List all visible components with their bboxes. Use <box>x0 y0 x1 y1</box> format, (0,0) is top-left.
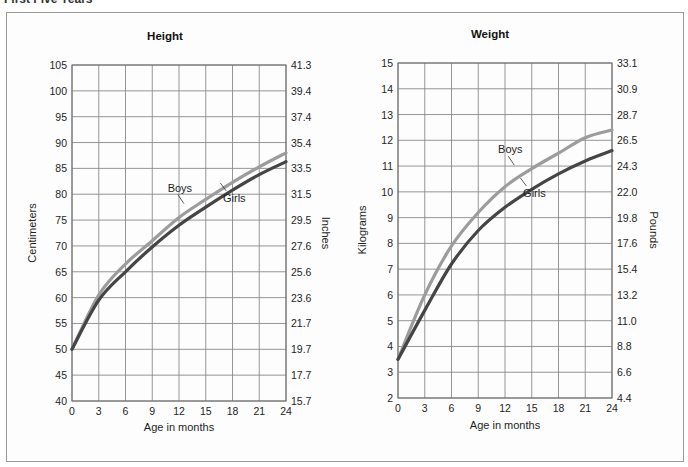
height-ytick-right: 35.4 <box>291 137 312 149</box>
weight-ytick-right: 33.1 <box>617 57 638 69</box>
weight-ytick-right: 4.4 <box>617 392 632 404</box>
height-ytick-left: 75 <box>55 214 67 226</box>
height-xtick: 9 <box>149 405 155 417</box>
height-ytick-right: 37.4 <box>291 111 312 123</box>
height-ytick-left: 100 <box>49 85 67 97</box>
weight-ytick-right: 24.3 <box>617 160 638 172</box>
weight-xtick: 6 <box>449 402 455 414</box>
weight-ytick-right: 30.9 <box>617 83 638 95</box>
height-ytick-right: 39.4 <box>291 85 312 97</box>
height-xtick: 0 <box>69 405 75 417</box>
height-ytick-left: 95 <box>55 111 67 123</box>
height-xtick: 24 <box>280 405 292 417</box>
weight-ytick-left: 9 <box>387 212 393 224</box>
height-ytick-right: 33.5 <box>291 162 312 174</box>
weight-ytick-left: 6 <box>387 289 393 301</box>
height-xtick: 21 <box>253 405 265 417</box>
height-ytick-left: 70 <box>55 240 67 252</box>
weight-leader-girls <box>520 178 526 186</box>
height-x-axis-label: Age in months <box>144 421 215 433</box>
weight-ytick-left: 3 <box>387 366 393 378</box>
height-ytick-left: 50 <box>55 343 67 355</box>
height-xtick: 15 <box>200 405 212 417</box>
height-ytick-right: 31.5 <box>291 188 312 200</box>
weight-ytick-left: 4 <box>387 340 393 352</box>
height-ytick-left: 105 <box>49 59 67 71</box>
weight-xtick: 9 <box>475 402 481 414</box>
weight-ytick-left: 8 <box>387 237 393 249</box>
height-ytick-left: 40 <box>55 395 67 407</box>
weight-ytick-left: 15 <box>381 57 393 69</box>
height-label-girls: Girls <box>223 192 246 204</box>
weight-ytick-left: 14 <box>381 83 393 95</box>
weight-ytick-right: 15.4 <box>617 263 638 275</box>
height-y-axis-label-left: Centimeters <box>26 203 38 263</box>
height-ytick-right: 27.6 <box>291 240 312 252</box>
weight-ytick-left: 10 <box>381 186 393 198</box>
weight-xtick: 0 <box>395 402 401 414</box>
height-ytick-left: 65 <box>55 266 67 278</box>
height-chart-title: Height <box>147 30 183 42</box>
weight-grid <box>398 63 612 398</box>
weight-chart: 234567891011121314154.46.68.811.013.215.… <box>356 28 660 431</box>
weight-ytick-right: 8.8 <box>617 340 632 352</box>
weight-ytick-right: 26.5 <box>617 134 638 146</box>
weight-ytick-right: 19.8 <box>617 212 638 224</box>
height-ytick-right: 41.3 <box>291 59 312 71</box>
weight-y-axis-label-left: Kilograms <box>356 205 368 254</box>
weight-xtick: 3 <box>422 402 428 414</box>
weight-label-girls: Girls <box>523 187 546 199</box>
weight-ytick-left: 7 <box>387 263 393 275</box>
height-ytick-right: 23.6 <box>291 292 312 304</box>
weight-label-boys: Boys <box>498 143 523 155</box>
weight-ytick-right: 11.0 <box>617 315 637 327</box>
height-ytick-right: 29.5 <box>291 214 312 226</box>
height-ytick-left: 45 <box>55 369 67 381</box>
height-ytick-left: 85 <box>55 162 67 174</box>
weight-y-axis-label-right: Pounds <box>648 211 660 249</box>
growth-charts: 40455055606570758085909510010515.717.719… <box>0 0 688 467</box>
height-ytick-left: 90 <box>55 137 67 149</box>
height-ytick-right: 21.7 <box>291 317 312 329</box>
weight-xtick: 15 <box>526 402 538 414</box>
weight-ytick-right: 17.6 <box>617 237 638 249</box>
height-ytick-left: 60 <box>55 292 67 304</box>
weight-xtick: 24 <box>606 402 618 414</box>
height-chart: 40455055606570758085909510010515.717.719… <box>26 30 332 433</box>
weight-ytick-left: 13 <box>381 109 393 121</box>
height-grid <box>72 65 286 401</box>
height-ytick-left: 55 <box>55 317 67 329</box>
height-ytick-right: 25.6 <box>291 266 312 278</box>
weight-xtick: 21 <box>579 402 591 414</box>
weight-ytick-right: 6.6 <box>617 366 632 378</box>
height-label-boys: Boys <box>168 182 193 194</box>
weight-xtick: 12 <box>499 402 511 414</box>
height-xtick: 18 <box>227 405 239 417</box>
height-xtick: 3 <box>96 405 102 417</box>
weight-ytick-left: 12 <box>381 134 393 146</box>
weight-leader-boys <box>508 156 514 165</box>
height-xtick: 12 <box>173 405 185 417</box>
height-ytick-right: 19.7 <box>291 343 312 355</box>
height-y-axis-label-right: Inches <box>320 217 332 250</box>
weight-ytick-right: 28.7 <box>617 109 638 121</box>
weight-xtick: 18 <box>553 402 565 414</box>
weight-ytick-left: 2 <box>387 392 393 404</box>
weight-ytick-right: 22.0 <box>617 186 638 198</box>
height-ytick-right: 17.7 <box>291 369 312 381</box>
weight-chart-title: Weight <box>471 28 509 40</box>
weight-ytick-left: 5 <box>387 315 393 327</box>
weight-x-axis-label: Age in months <box>470 419 541 431</box>
weight-ytick-right: 13.2 <box>617 289 638 301</box>
height-xtick: 6 <box>123 405 129 417</box>
height-ytick-right: 15.7 <box>291 395 312 407</box>
height-ytick-left: 80 <box>55 188 67 200</box>
weight-ytick-left: 11 <box>382 160 393 172</box>
